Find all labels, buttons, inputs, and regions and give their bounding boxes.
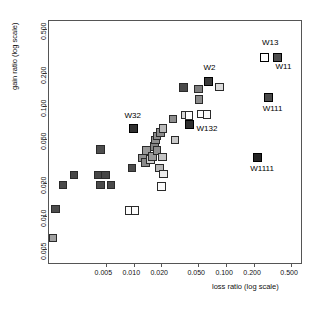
point-label-W32: W32 (125, 111, 141, 120)
x-axis-tick (134, 263, 135, 267)
data-point (131, 206, 140, 215)
point-label-W111: W111 (263, 104, 283, 113)
x-axis-tick-label: 0.050 (187, 269, 205, 276)
x-axis-tick-label: 0.005 (95, 269, 113, 276)
point-label-W13: W13 (262, 38, 278, 47)
x-axis-tick-label: 0.010 (123, 269, 141, 276)
data-point (51, 205, 60, 214)
data-point (59, 181, 68, 190)
data-point (49, 234, 58, 243)
x-axis-tick-label: 0.020 (150, 269, 168, 276)
y-axis-title: gain ratio (log scale) (10, 22, 19, 90)
point-label-W11: W11 (276, 62, 292, 71)
data-point (70, 171, 79, 180)
y-axis-tick-label: 0.010 (40, 209, 47, 227)
x-axis-tick (291, 263, 292, 267)
data-point (107, 181, 116, 190)
data-point (194, 85, 203, 94)
data-point (158, 153, 167, 162)
data-point-W13 (260, 53, 269, 62)
y-axis-tick-label: 0.100 (40, 99, 47, 117)
data-point (96, 181, 105, 190)
data-point (195, 95, 204, 104)
x-axis-title: loss ratio (log scale) (212, 282, 279, 291)
point-label-W2: W2 (203, 63, 215, 72)
x-axis-tick-label: 0.500 (280, 269, 298, 276)
data-point (203, 110, 212, 119)
y-axis-tick-label: 0.020 (40, 176, 47, 194)
data-point (159, 170, 168, 179)
x-axis-tick (198, 263, 199, 267)
y-axis-tick-label: 0.200 (40, 66, 47, 84)
y-axis-tick-label: 0.050 (40, 132, 47, 150)
x-axis-tick (161, 263, 162, 267)
data-point (157, 182, 166, 191)
data-point (159, 124, 168, 133)
data-point (215, 83, 224, 92)
data-point (101, 171, 110, 180)
data-point-W2 (204, 77, 213, 86)
x-axis-tick (106, 263, 107, 267)
data-point (96, 145, 105, 154)
data-point (169, 115, 178, 124)
data-point (171, 136, 180, 145)
data-point (179, 83, 188, 92)
data-point-W1111 (253, 153, 262, 162)
x-axis-tick-label: 0.100 (215, 269, 233, 276)
data-point (128, 164, 137, 173)
x-axis-tick (254, 263, 255, 267)
data-point-W111 (264, 93, 273, 102)
y-axis-tick-label: 0.500 (40, 22, 47, 40)
point-label-W1111: W1111 (250, 164, 274, 173)
scatter-plot-figure: 0.0050.0100.0200.0500.1000.2000.5000.005… (0, 0, 314, 328)
data-point-W32 (129, 124, 138, 133)
point-label-W132: W132 (196, 124, 217, 133)
x-axis-tick-label: 0.200 (243, 269, 261, 276)
x-axis-tick (226, 263, 227, 267)
plot-area: 0.0050.0100.0200.0500.1000.2000.5000.005… (0, 0, 314, 328)
y-axis-tick-label: 0.005 (40, 242, 47, 260)
data-point-W132 (185, 120, 194, 129)
